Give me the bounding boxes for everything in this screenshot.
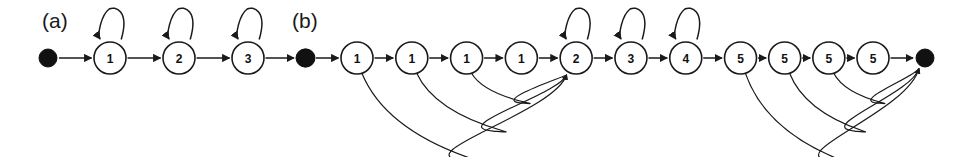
self-loop-edge (168, 8, 193, 39)
skip-edge (362, 73, 567, 157)
state-label: 1 (107, 52, 114, 66)
state-node: 2 (560, 42, 592, 74)
skip-edge (789, 69, 919, 132)
state-node: 1 (341, 42, 373, 74)
state-node: 5 (769, 42, 801, 74)
panel-a: (a)123 (39, 8, 315, 74)
state-label: 1 (518, 52, 525, 66)
state-label: 3 (628, 52, 635, 66)
state-label: 5 (870, 52, 877, 66)
state-node: 4 (670, 42, 702, 74)
diagram-root: (a)123(b)11112345555 (39, 8, 934, 157)
self-loop-edge (99, 8, 124, 39)
state-node: 5 (725, 42, 757, 74)
figure-container: (a)123(b)11112345555 (0, 0, 957, 157)
self-loop-edge (675, 8, 700, 39)
state-node: 1 (451, 42, 483, 74)
panel-b: (b)11112345555 (292, 8, 934, 157)
state-node: 3 (232, 42, 264, 74)
state-node: 2 (163, 42, 195, 74)
state-node: 1 (94, 42, 126, 74)
state-label: 5 (781, 52, 788, 66)
panel-label-b: (b) (292, 9, 318, 32)
start-state-node (39, 49, 57, 67)
skip-edge (417, 73, 567, 132)
state-node: 1 (396, 42, 428, 74)
state-node: 3 (615, 42, 647, 74)
start-state-node (296, 49, 314, 67)
state-label: 2 (573, 52, 580, 66)
state-node: 5 (813, 42, 845, 74)
self-loop-edge (565, 8, 590, 39)
skip-edge (471, 73, 566, 103)
state-label: 5 (825, 52, 832, 66)
state-label: 4 (682, 52, 689, 66)
state-diagram-svg: (a)123(b)11112345555 (0, 0, 957, 157)
self-loop-edge (620, 8, 645, 39)
self-loop-edge (237, 8, 262, 39)
state-label: 1 (354, 52, 361, 66)
state-label: 2 (176, 52, 183, 66)
skip-edge (745, 69, 919, 157)
state-label: 1 (463, 52, 470, 66)
state-label: 3 (245, 52, 252, 66)
panel-label-a: (a) (42, 9, 68, 32)
state-label: 1 (408, 52, 415, 66)
state-label: 5 (737, 52, 744, 66)
state-node: 1 (505, 42, 537, 74)
end-state-node (916, 49, 934, 67)
state-node: 5 (857, 42, 889, 74)
